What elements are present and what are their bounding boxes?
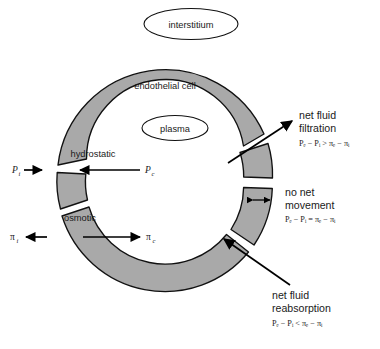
osmotic-capillary-subscript: c	[153, 237, 156, 244]
reabsorption-line2: reabsorption	[272, 302, 331, 314]
figure-canvas: interstitium endothelial cell plasma hyd…	[0, 0, 380, 349]
hydrostatic-capillary-subscript: c	[152, 170, 155, 177]
plasma-label-group: plasma	[142, 116, 208, 141]
osmotic-interstitial-symbol: π	[10, 232, 15, 242]
hydrostatic-label: hydrostatic	[71, 149, 116, 159]
no-net-line1: no net	[285, 186, 315, 198]
endothelium-segment-right-upper	[240, 144, 273, 179]
osmotic-interstitial-subscript: i	[17, 237, 19, 244]
reabsorption-formula: Pₑ − Pᵢ < πₑ − πᵢ	[272, 319, 323, 328]
hydrostatic-interstitial-subscript: i	[19, 170, 21, 177]
osmotic-label: osmotic	[64, 213, 96, 223]
reabsorption-line1: net fluid	[272, 289, 309, 301]
endothelial-cell-ring	[57, 70, 273, 292]
interstitium-label: interstitium	[169, 20, 214, 30]
filtration-line1: net fluid	[299, 109, 336, 121]
interstitium-label-group: interstitium	[144, 9, 238, 40]
osmotic-capillary-symbol: π	[146, 232, 151, 242]
endothelium-segment-right-lower	[231, 188, 272, 246]
capillary-diagram: interstitium endothelial cell plasma hyd…	[0, 0, 380, 349]
hydrostatic-force-group: hydrostatic P i P c	[11, 149, 155, 177]
hydrostatic-interstitial-symbol: P	[11, 165, 18, 175]
no-net-formula: Pₑ − Pᵢ = πₑ − πᵢ	[285, 215, 336, 224]
endothelium-segment-left	[57, 173, 88, 210]
no-net-line2: movement	[285, 199, 335, 211]
plasma-label: plasma	[160, 124, 191, 134]
hydrostatic-capillary-symbol: P	[144, 165, 151, 175]
filtration-line2: filtration	[299, 122, 336, 134]
filtration-formula: Pₑ − Pᵢ > πₑ − πᵢ	[299, 139, 350, 148]
endothelial-cell-label: endothelial cell	[134, 81, 196, 91]
